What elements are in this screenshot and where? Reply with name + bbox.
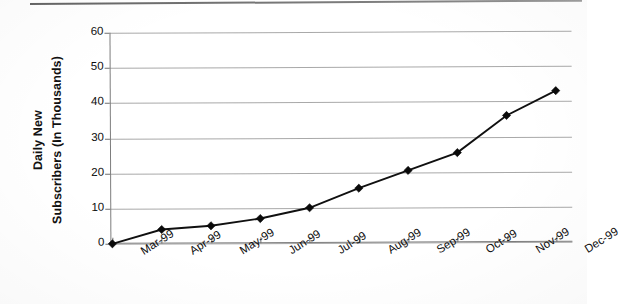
- data-point-jun-99: [256, 214, 264, 222]
- x-tick-label-oct-99: Oct-99: [484, 245, 490, 255]
- y-tick-label-10: 10: [74, 201, 104, 213]
- y-axis-tick-labels: 0102030405060: [71, 33, 104, 244]
- x-tick-label-aug-99: Aug-99: [385, 246, 391, 256]
- series-line-daily-new-subscribers: [112, 91, 557, 244]
- y-tick-label-50: 50: [74, 60, 104, 72]
- y-tick-label-60: 60: [73, 25, 103, 37]
- data-point-jul-99: [305, 204, 313, 212]
- data-point-dec-99: [552, 87, 560, 95]
- x-tick-label-apr-99: Apr-99: [188, 246, 194, 256]
- x-tick-label-jun-99: Jun-99: [286, 246, 292, 256]
- x-tick-label-mar-99: Mar-99: [138, 247, 144, 257]
- y-axis-title: Daily New Subscribers (In Thousands): [28, 25, 67, 255]
- y-axis-title-line-2: Subscribers (In Thousands): [47, 25, 67, 255]
- x-tick-label-dec-99: Dec-99: [582, 245, 588, 255]
- data-point-sep-99: [404, 166, 412, 174]
- x-tick-label-sep-99: Sep-99: [434, 245, 440, 255]
- data-point-aug-99: [355, 184, 363, 192]
- y-tick-label-20: 20: [74, 165, 104, 177]
- x-tick-label-may-99: May-99: [237, 246, 243, 256]
- y-tick-label-30: 30: [74, 130, 104, 142]
- plot-area: [109, 31, 572, 244]
- y-tick-label-0: 0: [74, 236, 104, 248]
- x-tick-label-jul-99: Jul-99: [336, 246, 342, 256]
- y-axis-title-line-1: Daily New: [28, 25, 48, 255]
- x-axis-tick-labels: Mar-99Apr-99May-99Jun-99Jul-99Aug-99Sep-…: [110, 245, 572, 303]
- x-tick-label-nov-99: Nov-99: [533, 245, 539, 255]
- data-series-svg: [109, 31, 572, 244]
- chart-canvas: Daily New Subscribers (In Thousands) 010…: [0, 0, 588, 304]
- y-tick-label-40: 40: [74, 95, 104, 107]
